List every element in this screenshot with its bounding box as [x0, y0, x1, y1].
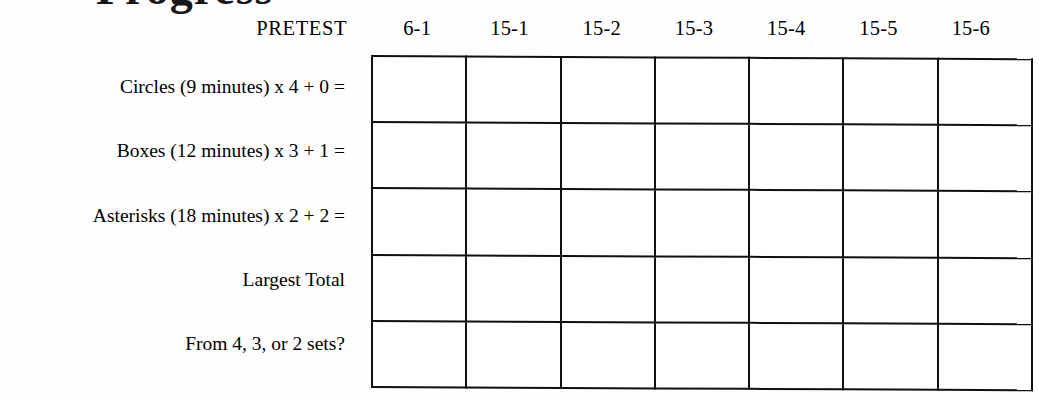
grid-cell[interactable]: [938, 59, 1032, 126]
pretest-label: PRETEST: [120, 17, 347, 40]
column-header-2: 15-2: [556, 17, 648, 40]
grid-cell[interactable]: [938, 257, 1032, 324]
column-header-1: 15-1: [463, 17, 555, 40]
table-row: [372, 56, 1032, 125]
grid-cell[interactable]: [843, 124, 937, 191]
grid-cell[interactable]: [466, 255, 560, 322]
score-grid-body: [372, 56, 1032, 390]
row-label-boxes: Boxes (12 minutes) x 3 + 1 =: [0, 141, 345, 161]
grid-cell[interactable]: [561, 255, 655, 322]
grid-cell[interactable]: [655, 190, 749, 257]
worksheet-page: Progress PRETEST 6-1 15-1 15-2 15-3 15-4…: [0, 0, 1039, 401]
grid-cell[interactable]: [466, 56, 560, 123]
grid-cell[interactable]: [843, 58, 937, 125]
grid-cell[interactable]: [372, 188, 466, 255]
grid-cell[interactable]: [561, 123, 655, 190]
grid-cell[interactable]: [372, 122, 466, 189]
grid-cell[interactable]: [561, 189, 655, 256]
grid-cell[interactable]: [561, 322, 655, 389]
grid-cell[interactable]: [749, 323, 843, 390]
column-header-4: 15-4: [740, 17, 832, 40]
column-header-3: 15-3: [648, 17, 740, 40]
grid-cell[interactable]: [749, 190, 843, 257]
grid-cell[interactable]: [372, 56, 466, 123]
clipped-title-fragment: Progress: [96, 0, 274, 12]
table-row: [372, 255, 1032, 324]
grid-cell[interactable]: [938, 125, 1032, 192]
grid-cell[interactable]: [655, 57, 749, 124]
grid-cell[interactable]: [372, 255, 466, 322]
column-header-6: 15-6: [925, 17, 1017, 40]
column-header-0: 6-1: [371, 17, 463, 40]
grid-cell[interactable]: [655, 256, 749, 323]
grid-cell[interactable]: [561, 57, 655, 124]
grid-cell[interactable]: [749, 256, 843, 323]
row-label-circles: Circles (9 minutes) x 4 + 0 =: [0, 77, 345, 97]
grid-cell[interactable]: [372, 321, 466, 388]
column-header-5: 15-5: [832, 17, 924, 40]
grid-cell[interactable]: [843, 191, 937, 258]
row-label-from-sets: From 4, 3, or 2 sets?: [0, 334, 345, 354]
grid-cell[interactable]: [843, 257, 937, 324]
row-label-asterisks: Asterisks (18 minutes) x 2 + 2 =: [0, 206, 345, 226]
row-label-largest-total: Largest Total: [0, 270, 345, 290]
grid-cell[interactable]: [749, 124, 843, 191]
grid-cell[interactable]: [843, 323, 937, 390]
score-grid: [371, 55, 1033, 391]
grid-cell[interactable]: [466, 189, 560, 256]
grid-cell[interactable]: [655, 124, 749, 191]
grid-cell[interactable]: [749, 58, 843, 125]
grid-cell[interactable]: [938, 191, 1032, 258]
grid-cell[interactable]: [938, 324, 1032, 391]
table-row: [372, 188, 1032, 257]
table-row: [372, 122, 1032, 191]
grid-cell[interactable]: [466, 123, 560, 190]
grid-cell[interactable]: [655, 322, 749, 389]
table-row: [372, 321, 1032, 390]
grid-cell[interactable]: [466, 321, 560, 388]
column-header-row: PRETEST 6-1 15-1 15-2 15-3 15-4 15-5 15-…: [0, 17, 1039, 47]
